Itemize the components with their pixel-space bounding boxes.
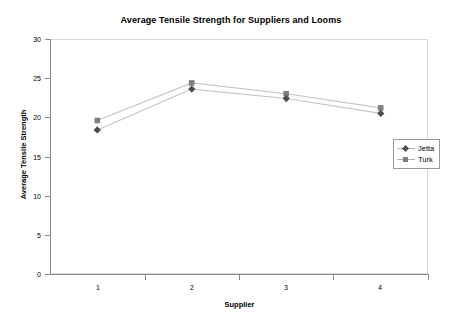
x-axis-tick-label: 2 <box>172 284 212 291</box>
x-axis-tick <box>239 275 240 280</box>
diamond-marker-icon <box>397 144 415 153</box>
x-axis-title: Supplier <box>50 300 429 309</box>
x-axis-tick-label: 1 <box>78 284 118 291</box>
legend-item-turk: Turk <box>397 154 434 165</box>
y-axis-tick <box>45 274 50 275</box>
square-marker-icon <box>397 155 415 164</box>
x-axis-tick-label: 3 <box>266 284 306 291</box>
y-axis-tick <box>45 235 50 236</box>
chart-title: Average Tensile Strength for Suppliers a… <box>0 15 462 25</box>
x-axis-tick-label: 4 <box>360 284 400 291</box>
chart-legend: Jetta Turk <box>393 139 440 169</box>
legend-item-jetta: Jetta <box>397 143 434 154</box>
x-axis-tick <box>333 275 334 280</box>
y-axis-tick <box>45 157 50 158</box>
x-axis-tick <box>145 275 146 280</box>
legend-label: Jetta <box>415 144 434 153</box>
legend-label: Turk <box>415 155 433 164</box>
plot-area <box>50 39 428 274</box>
x-axis-tick <box>428 275 429 280</box>
y-axis-tick-label: 30 <box>11 36 41 43</box>
y-axis-title: Average Tensile Strength <box>19 85 28 225</box>
chart-figure: Average Tensile Strength for Suppliers a… <box>0 0 462 323</box>
y-axis-tick <box>45 39 50 40</box>
y-axis-tick <box>45 117 50 118</box>
y-axis-tick-label: 0 <box>11 271 41 278</box>
y-axis-line <box>50 39 51 275</box>
y-axis-tick-label: 5 <box>11 232 41 239</box>
y-axis-tick-label: 25 <box>11 75 41 82</box>
y-axis-tick <box>45 78 50 79</box>
y-axis-tick <box>45 196 50 197</box>
